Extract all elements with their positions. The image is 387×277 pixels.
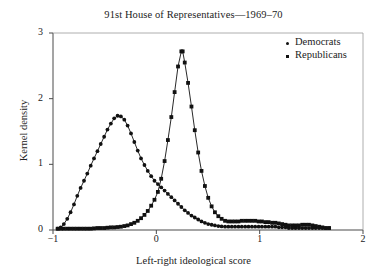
data-point-square [156, 190, 160, 194]
data-point-square [223, 219, 227, 223]
data-point-circle [136, 149, 140, 153]
y-tick-label: 1 [21, 157, 43, 168]
data-point-square [270, 221, 274, 225]
data-point-square [314, 224, 318, 228]
data-point-square [250, 219, 254, 223]
data-point-circle [250, 225, 254, 229]
data-point-square [193, 128, 197, 132]
data-point-square [307, 223, 311, 227]
data-point-circle [273, 225, 277, 229]
data-point-circle [146, 169, 150, 173]
data-point-square [102, 226, 106, 230]
data-point-square [260, 220, 264, 224]
data-point-circle [200, 220, 204, 224]
data-point-circle [226, 225, 230, 229]
data-point-circle [126, 124, 130, 128]
kernel-density-figure: 91st House of Representatives—1969–70 Le… [0, 0, 387, 277]
data-point-circle [92, 157, 96, 161]
data-point-circle [237, 225, 241, 229]
data-point-circle [122, 118, 126, 122]
data-point-circle [85, 172, 89, 176]
data-point-circle [109, 122, 113, 126]
data-point-square [230, 220, 234, 224]
data-point-square [132, 221, 136, 225]
data-point-square [310, 224, 314, 228]
data-point-circle [99, 142, 103, 146]
data-point-circle [233, 225, 237, 229]
data-point-circle [253, 225, 257, 229]
data-point-square [240, 219, 244, 223]
data-point-circle [69, 210, 73, 214]
data-point-square [116, 225, 120, 229]
data-point-circle [106, 128, 110, 132]
data-point-square [153, 198, 157, 202]
data-point-square [69, 227, 73, 231]
y-axis-label: Kernel density [18, 61, 29, 201]
data-point-square [72, 227, 76, 231]
data-point-circle [213, 224, 217, 228]
data-point-square [79, 227, 83, 231]
chart-legend: Democrats Republicans [283, 35, 347, 61]
data-point-square [143, 213, 147, 217]
data-point-square [173, 90, 177, 94]
data-point-square [247, 219, 251, 223]
data-point-circle [230, 225, 234, 229]
data-point-square [287, 224, 291, 228]
data-point-square [324, 226, 328, 230]
data-point-circle [173, 199, 177, 203]
data-point-square [320, 225, 324, 229]
data-point-square [267, 220, 271, 224]
data-point-circle [206, 222, 210, 226]
circle-marker-icon [283, 35, 292, 48]
data-point-square [146, 209, 150, 213]
data-point-square [166, 138, 170, 142]
data-point-circle [149, 174, 153, 178]
legend-label-democrats: Democrats [295, 35, 340, 48]
data-point-square [75, 227, 79, 231]
data-point-circle [196, 218, 200, 222]
data-point-square [82, 227, 86, 231]
axes-frame [53, 33, 363, 230]
data-point-square [112, 225, 116, 229]
data-point-circle [179, 205, 183, 209]
data-point-square [181, 49, 185, 53]
data-point-circle [216, 224, 220, 228]
data-point-circle [193, 216, 197, 220]
data-point-square [300, 223, 304, 227]
data-point-square [277, 222, 281, 226]
data-point-square [200, 169, 204, 173]
data-point-circle [79, 186, 83, 190]
data-point-circle [143, 163, 147, 167]
data-point-circle [153, 179, 157, 183]
data-point-circle [112, 116, 116, 120]
data-point-square [290, 224, 294, 228]
data-point-square [99, 226, 103, 230]
data-point-square [183, 61, 187, 65]
data-point-circle [210, 223, 214, 227]
data-point-circle [243, 225, 247, 229]
data-point-square [237, 220, 241, 224]
data-point-square [65, 227, 69, 231]
data-point-square [294, 224, 298, 228]
data-point-circle [183, 208, 187, 212]
data-series-group [56, 49, 331, 230]
data-point-square [213, 210, 217, 214]
data-point-circle [65, 217, 69, 221]
data-point-circle [119, 115, 123, 119]
data-point-circle [82, 179, 86, 183]
data-point-circle [159, 185, 163, 189]
data-point-circle [277, 225, 281, 229]
data-point-square [317, 225, 321, 229]
legend-item-republicans: Republicans [283, 48, 347, 61]
x-tick-label: 2 [348, 233, 378, 244]
data-point-circle [89, 164, 93, 168]
data-point-circle [169, 195, 173, 199]
data-point-circle [267, 225, 271, 229]
y-tick-label: 3 [21, 26, 43, 37]
data-point-square [62, 227, 66, 231]
data-point-square [304, 223, 308, 227]
series-line [58, 116, 329, 229]
data-point-square [253, 219, 257, 223]
data-point-circle [190, 214, 194, 218]
data-point-square [96, 226, 100, 230]
